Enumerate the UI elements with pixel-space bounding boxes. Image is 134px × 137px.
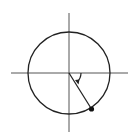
unit-circle-diagram [0, 0, 134, 137]
point-on-circle [89, 106, 94, 111]
